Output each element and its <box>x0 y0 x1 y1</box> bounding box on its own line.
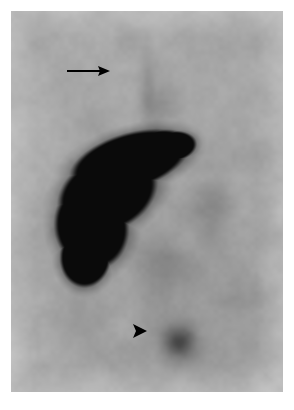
scintigram-plate <box>11 11 283 392</box>
figure-root <box>0 0 294 410</box>
scintigram-image <box>11 11 283 392</box>
